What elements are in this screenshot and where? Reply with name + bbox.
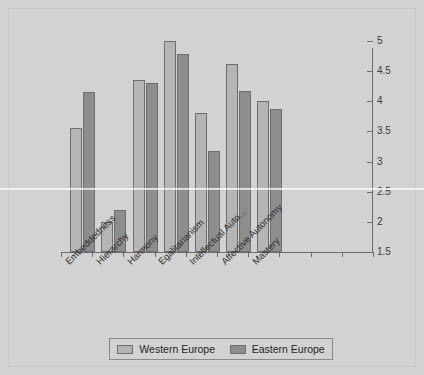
bar[interactable] [70,128,82,252]
legend-swatch-icon [230,345,246,354]
legend-item-eastern-europe[interactable]: Eastern Europe [230,343,325,355]
legend-swatch-icon [117,345,133,354]
y-tick [367,71,373,72]
x-tick [373,252,374,257]
y-tick [367,41,373,42]
chart-frame: 1.522.533.544.55 EmbeddednessHierarchyHa… [8,8,416,367]
bar[interactable] [270,109,282,252]
y-tick [367,222,373,223]
legend-item-western-europe[interactable]: Western Europe [117,343,215,355]
y-tick-label: 4.5 [377,66,391,76]
legend-label: Eastern Europe [252,343,325,355]
y-tick [367,131,373,132]
y-tick-label: 2.5 [377,187,391,197]
bar[interactable] [177,54,189,252]
bar-group [70,41,95,252]
y-tick-label: 2 [377,217,383,227]
x-tick [279,252,280,257]
y-tick [367,162,373,163]
x-tick [186,252,187,257]
bar[interactable] [146,83,158,252]
x-tick [92,252,93,257]
y-tick [367,192,373,193]
y-tick-label: 3.5 [377,126,391,136]
x-tick [217,252,218,257]
bar[interactable] [164,41,176,252]
y-tick-label: 3 [377,157,383,167]
x-tick [248,252,249,257]
y-tick-label: 5 [377,36,383,46]
x-tick [342,252,343,257]
legend-label: Western Europe [139,343,215,355]
bar[interactable] [133,80,145,252]
x-tick [61,252,62,257]
bar-group [164,41,189,252]
x-tick [123,252,124,257]
bar-group [133,41,158,252]
y-tick [367,252,373,253]
chart-legend: Western Europe Eastern Europe [109,338,333,360]
y-tick-label: 1.5 [377,247,391,257]
x-tick [311,252,312,257]
y-tick [367,101,373,102]
x-tick [155,252,156,257]
y-tick-label: 4 [377,96,383,106]
